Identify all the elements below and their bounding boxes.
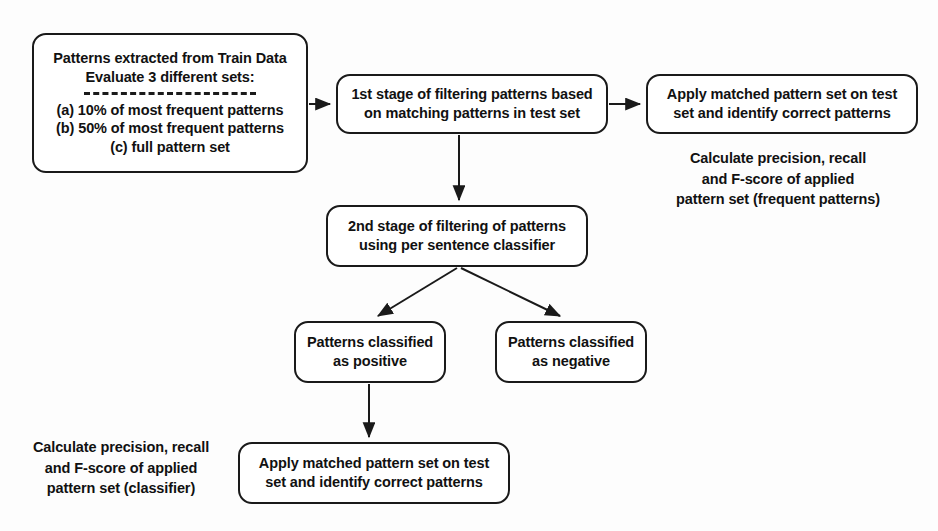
node-patterns-classified-negative[interactable]: Patterns classified as negative <box>495 321 647 383</box>
annotation-metrics-frequent-patterns: Calculate precision, recall and F-score … <box>628 148 928 210</box>
node-source-option-b: (b) 50% of most frequent patterns <box>56 119 284 138</box>
node-apply-pattern-set-bottom[interactable]: Apply matched pattern set on test set an… <box>238 442 510 504</box>
node-stage2-line-2: using per sentence classifier <box>359 236 555 255</box>
node-stage2-filtering[interactable]: 2nd stage of filtering of patterns using… <box>326 205 588 267</box>
node-apply-pattern-set-top[interactable]: Apply matched pattern set on test set an… <box>646 74 918 134</box>
node-source-line-1: Patterns extracted from Train Data <box>53 49 287 68</box>
node-stage1-line-1: 1st stage of filtering patterns based <box>351 85 592 104</box>
annotation-classifier-line-2: and F-score of applied <box>8 458 234 479</box>
node-source-option-a: (a) 10% of most frequent patterns <box>56 101 283 120</box>
annotation-classifier-line-1: Calculate precision, recall <box>8 437 234 458</box>
node-stage2-line-1: 2nd stage of filtering of patterns <box>348 217 566 236</box>
node-negative-line-2: as negative <box>532 352 610 371</box>
node-stage1-line-2: on matching patterns in test set <box>364 104 580 123</box>
annotation-metrics-classifier: Calculate precision, recall and F-score … <box>8 437 234 499</box>
node-patterns-classified-positive[interactable]: Patterns classified as positive <box>294 321 446 383</box>
annotation-frequent-line-3: pattern set (frequent patterns) <box>628 189 928 210</box>
annotation-frequent-line-1: Calculate precision, recall <box>628 148 928 169</box>
node-apply-top-line-2: set and identify correct patterns <box>673 104 890 123</box>
edge-stage2-to-positive-branchpoint <box>461 268 560 316</box>
node-source-line-2: Evaluate 3 different sets: <box>85 68 254 87</box>
node-positive-line-1: Patterns classified <box>307 333 433 352</box>
node-apply-bottom-line-2: set and identify correct patterns <box>265 473 482 492</box>
annotation-frequent-line-2: and F-score of applied <box>628 169 928 190</box>
node-positive-line-2: as positive <box>333 352 407 371</box>
node-stage1-filtering[interactable]: 1st stage of filtering patterns based on… <box>336 74 608 134</box>
annotation-classifier-line-3: pattern set (classifier) <box>8 478 234 499</box>
flowchart-canvas: Patterns extracted from Train Data Evalu… <box>0 0 938 531</box>
edge-stage2-to-negative-branchpoint <box>378 268 457 316</box>
node-source-patterns[interactable]: Patterns extracted from Train Data Evalu… <box>32 33 308 173</box>
node-source-option-c: (c) full pattern set <box>110 138 230 157</box>
node-apply-top-line-1: Apply matched pattern set on test <box>667 85 897 104</box>
dashed-separator <box>84 92 256 95</box>
node-negative-line-1: Patterns classified <box>508 333 634 352</box>
node-apply-bottom-line-1: Apply matched pattern set on test <box>259 454 489 473</box>
